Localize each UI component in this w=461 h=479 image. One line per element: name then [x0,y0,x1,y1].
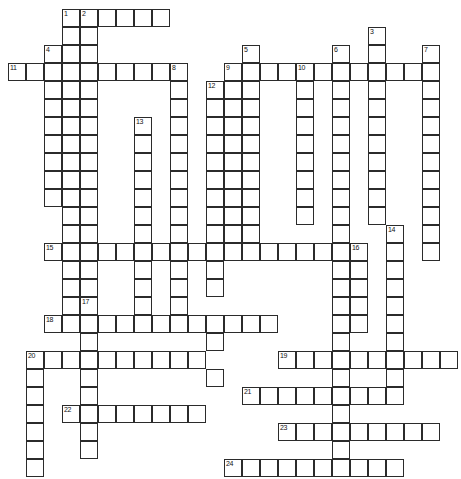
crossword-cell[interactable] [206,279,224,297]
crossword-cell[interactable] [224,171,242,189]
crossword-cell[interactable] [296,153,314,171]
crossword-cell[interactable] [332,333,350,351]
crossword-cell[interactable] [134,261,152,279]
crossword-cell[interactable] [134,279,152,297]
crossword-cell[interactable] [62,297,80,315]
crossword-cell[interactable] [44,351,62,369]
crossword-cell[interactable] [116,9,134,27]
crossword-cell-numbered[interactable]: 3 [368,27,386,45]
crossword-cell-numbered[interactable]: 10 [296,63,314,81]
crossword-cell[interactable] [224,81,242,99]
crossword-cell[interactable] [62,225,80,243]
crossword-cell[interactable] [260,459,278,477]
crossword-cell-numbered[interactable]: 2 [80,9,98,27]
crossword-cell[interactable] [332,387,350,405]
crossword-cell[interactable] [170,135,188,153]
crossword-cell[interactable] [386,315,404,333]
crossword-cell[interactable] [80,279,98,297]
crossword-cell[interactable] [116,405,134,423]
crossword-cell[interactable] [26,387,44,405]
crossword-cell[interactable] [80,261,98,279]
crossword-cell[interactable] [332,171,350,189]
crossword-cell[interactable] [368,189,386,207]
crossword-cell[interactable] [368,99,386,117]
crossword-cell-numbered[interactable]: 12 [206,81,224,99]
crossword-cell-numbered[interactable]: 4 [44,45,62,63]
crossword-cell-numbered[interactable]: 17 [80,297,98,315]
crossword-cell[interactable] [98,243,116,261]
crossword-cell[interactable] [80,333,98,351]
crossword-cell[interactable] [62,63,80,81]
crossword-cell[interactable] [260,315,278,333]
crossword-cell[interactable] [170,225,188,243]
crossword-cell[interactable] [62,207,80,225]
crossword-cell[interactable] [242,225,260,243]
crossword-cell[interactable] [422,171,440,189]
crossword-cell[interactable] [386,369,404,387]
crossword-cell[interactable] [350,279,368,297]
crossword-cell[interactable] [134,405,152,423]
crossword-cell[interactable] [296,81,314,99]
crossword-cell-numbered[interactable]: 5 [242,45,260,63]
crossword-cell[interactable] [242,135,260,153]
crossword-cell-numbered[interactable]: 8 [170,63,188,81]
crossword-cell[interactable] [224,189,242,207]
crossword-cell[interactable] [332,369,350,387]
crossword-cell[interactable] [332,117,350,135]
crossword-cell[interactable] [224,117,242,135]
crossword-cell[interactable] [26,459,44,477]
crossword-cell[interactable] [152,405,170,423]
crossword-cell[interactable] [80,81,98,99]
crossword-cell[interactable] [242,207,260,225]
crossword-cell[interactable] [134,351,152,369]
crossword-cell[interactable] [80,27,98,45]
crossword-cell[interactable] [332,63,350,81]
crossword-grid[interactable]: 123456711891012131415161718201921222324 [0,0,461,479]
crossword-cell[interactable] [386,279,404,297]
crossword-cell[interactable] [116,315,134,333]
crossword-cell[interactable] [80,351,98,369]
crossword-cell[interactable] [422,153,440,171]
crossword-cell[interactable] [62,261,80,279]
crossword-cell[interactable] [98,315,116,333]
crossword-cell[interactable] [224,225,242,243]
crossword-cell[interactable] [368,63,386,81]
crossword-cell[interactable] [332,315,350,333]
crossword-cell[interactable] [422,117,440,135]
crossword-cell[interactable] [278,63,296,81]
crossword-cell[interactable] [80,405,98,423]
crossword-cell[interactable] [386,333,404,351]
crossword-cell[interactable] [62,99,80,117]
crossword-cell-numbered[interactable]: 13 [134,117,152,135]
crossword-cell[interactable] [332,405,350,423]
crossword-cell[interactable] [332,99,350,117]
crossword-cell[interactable] [296,459,314,477]
crossword-cell[interactable] [296,189,314,207]
crossword-cell[interactable] [404,63,422,81]
crossword-cell[interactable] [206,117,224,135]
crossword-cell[interactable] [404,351,422,369]
crossword-cell-numbered[interactable]: 15 [44,243,62,261]
crossword-cell[interactable] [368,117,386,135]
crossword-cell[interactable] [296,171,314,189]
crossword-cell[interactable] [44,135,62,153]
crossword-cell[interactable] [314,459,332,477]
crossword-cell[interactable] [116,243,134,261]
crossword-cell[interactable] [134,243,152,261]
crossword-cell[interactable] [80,63,98,81]
crossword-cell[interactable] [296,423,314,441]
crossword-cell[interactable] [26,441,44,459]
crossword-cell[interactable] [224,153,242,171]
crossword-cell[interactable] [170,405,188,423]
crossword-cell[interactable] [116,63,134,81]
crossword-cell[interactable] [80,135,98,153]
crossword-cell[interactable] [206,135,224,153]
crossword-cell[interactable] [368,171,386,189]
crossword-cell[interactable] [224,243,242,261]
crossword-cell[interactable] [332,441,350,459]
crossword-cell[interactable] [332,135,350,153]
crossword-cell[interactable] [80,189,98,207]
crossword-cell[interactable] [350,459,368,477]
crossword-cell[interactable] [242,81,260,99]
crossword-cell[interactable] [242,189,260,207]
